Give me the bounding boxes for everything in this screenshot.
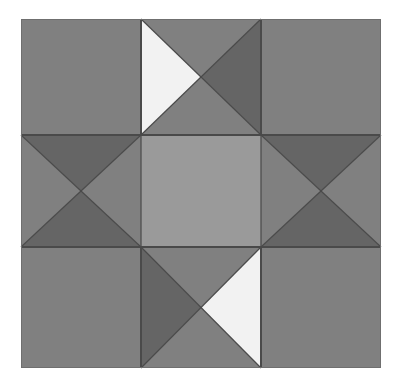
cells-layer <box>21 19 381 368</box>
corner-patch-top-right <box>261 19 381 135</box>
center-patch-fill <box>141 135 261 247</box>
corner-patch-bottom-right-fill <box>261 247 381 368</box>
hourglass-patch-middle-right <box>261 135 381 247</box>
hourglass-patch-bottom-center <box>141 247 261 368</box>
quilt-canvas <box>0 0 401 389</box>
corner-patch-bottom-right <box>261 247 381 368</box>
hourglass-patch-middle-left <box>21 135 141 247</box>
corner-patch-top-right-fill <box>261 19 381 135</box>
corner-patch-bottom-left-fill <box>21 247 141 368</box>
hourglass-patch-top-center <box>141 19 261 135</box>
corner-patch-top-left <box>21 19 141 135</box>
center-patch <box>141 135 261 247</box>
quilt-block-diagram <box>0 0 401 389</box>
corner-patch-bottom-left <box>21 247 141 368</box>
corner-patch-top-left-fill <box>21 19 141 135</box>
